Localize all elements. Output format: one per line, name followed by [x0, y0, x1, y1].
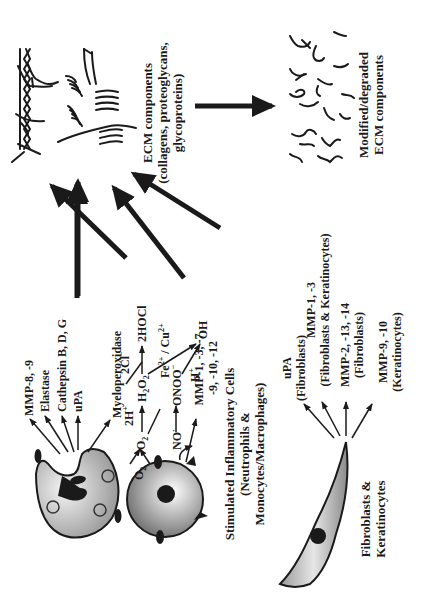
inflammatory-cells-label-line1: Stimulated Inflammatory Cells	[222, 344, 237, 564]
h2o2-sub2: 2	[142, 375, 151, 379]
no-sup: ·	[169, 429, 178, 432]
ecm-intact-label-line3: glycoproteins)	[170, 28, 185, 198]
fe-cu-label: Fe2+ / Cu2+	[158, 324, 173, 378]
ecm-degraded-label-line2: ECM components	[371, 30, 386, 180]
product-elastase: Elastase	[38, 370, 52, 412]
fe-sup: 2+	[157, 357, 166, 366]
h2o2-sub1: 2	[142, 389, 151, 393]
ecm-intact-label: ECM components (collagens, proteoglycans…	[140, 28, 185, 198]
product-cathepsin: Cathepsin B, D, G	[55, 319, 69, 412]
fib-upa-line1: uPA	[280, 328, 294, 408]
h2o2-label: H2O2	[135, 375, 150, 402]
product-mmp-8-9: MMP-8, -9	[22, 360, 36, 416]
ecm-intact-label-line1: ECM components	[140, 28, 155, 198]
ecm-intact-label-line2: (collagens, proteoglycans,	[155, 28, 170, 198]
macrophage-products-line2: -9, -10, -12	[206, 318, 220, 418]
fibroblast-label-line2: Keratinocytes	[373, 464, 388, 574]
two-h-text: 2H	[122, 411, 136, 426]
two-h-sup: +	[121, 406, 130, 411]
o2-text: O	[132, 471, 146, 480]
o2-sub: 2	[139, 467, 148, 471]
cu-sup: 2+	[157, 324, 166, 333]
product-myeloperoxidase: Myeloperoxidase	[110, 331, 124, 418]
h2o2-h: H	[135, 393, 149, 402]
two-h-label: 2H+	[122, 406, 137, 426]
two-cl-text: 2Cl	[118, 356, 132, 374]
superoxide-label: O2	[134, 437, 149, 450]
h2o2-o: O	[135, 379, 149, 388]
ecm-degraded-label: Modified/degraded ECM components	[356, 30, 386, 180]
inflammatory-cells-label: Stimulated Inflammatory Cells (Neutrophi…	[222, 344, 267, 564]
fe-text: Fe	[158, 365, 172, 378]
ecm-degradation-diagram: ECM components (collagens, proteoglycans…	[0, 0, 431, 614]
fib-mmp910-line1: MMP-9, -10	[376, 302, 390, 402]
macrophage-products-line1: MMP-1, -3, -7,	[192, 318, 206, 418]
fib-mmp21314-line1: MMP-2, -13, -14	[338, 290, 352, 400]
two-cl-sup: −	[117, 351, 126, 356]
no-text: NO	[170, 432, 184, 450]
product-upa: uPA	[71, 390, 85, 412]
fibroblast-product-mmp-2-13-14: MMP-2, -13, -14 (Fibroblasts)	[338, 290, 366, 400]
no-label: NO·	[170, 429, 185, 450]
two-cl-label: 2Cl−	[118, 351, 133, 374]
o2-label: O2	[132, 467, 147, 480]
fibroblast-product-mmp-9-10: MMP-9, -10 (Keratinocytes)	[376, 302, 404, 402]
fib-mmp910-line2: (Keratinocytes)	[390, 302, 404, 402]
hocl-label: 2HOCl	[135, 305, 150, 342]
inflammatory-cells-label-line3: Monocytes/Macrophages)	[252, 344, 267, 564]
superoxide-text: O	[134, 441, 148, 450]
cu-text: / Cu	[158, 332, 172, 357]
fibroblast-label-line1: Fibroblasts &	[358, 464, 373, 574]
ecm-degraded-label-line1: Modified/degraded	[356, 30, 371, 180]
superoxide-sub: 2	[141, 437, 150, 441]
fib-mmp21314-line2: (Fibroblasts)	[352, 290, 366, 400]
inflammatory-cells-label-line2: (Neutrophils &	[237, 344, 252, 564]
fibroblast-product-mmp-1-3: MMP-1, -3 (Fibroblasts & Keratinocytes)	[304, 220, 332, 400]
fib-mmp13-line1: MMP-1, -3	[304, 220, 318, 400]
fib-mmp13-line2: (Fibroblasts & Keratinocytes)	[318, 220, 332, 400]
fibroblast-label: Fibroblasts & Keratinocytes	[358, 464, 388, 574]
macrophage-products: MMP-1, -3, -7, -9, -10, -12	[192, 318, 220, 418]
